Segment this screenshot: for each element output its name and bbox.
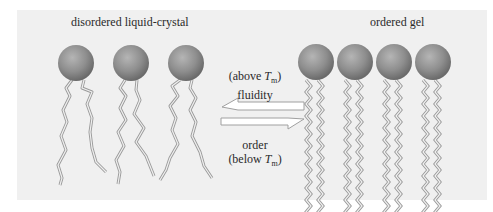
lipid-head [58,45,94,81]
lipid-ordered-2 [337,44,373,212]
fluidity-label: fluidity [200,88,310,102]
above-tm-condition: (above Tm) [200,69,310,88]
lipid-disordered-2 [113,45,154,184]
lipid-head [168,45,204,81]
order-label: order [200,138,310,152]
cooling-transition-label: order (below Tm) [200,138,310,171]
disordered-liquid-crystal-label: disordered liquid-crystal [71,15,189,30]
arrow-right-icon [221,118,304,129]
lipid-head [113,45,149,81]
disordered-lipids [58,45,212,185]
equilibrium-arrows [221,98,304,129]
lipid-head [337,44,373,80]
ordered-gel-label: ordered gel [370,15,424,30]
lipid-ordered-4 [415,44,451,212]
lipid-ordered-3 [376,44,412,212]
below-tm-condition: (below Tm) [200,152,310,171]
lipid-disordered-1 [58,45,106,185]
ordered-lipids [298,44,451,212]
lipid-phase-diagram [0,0,493,212]
lipid-head [415,44,451,80]
lipid-head [376,44,412,80]
heating-transition-label: (above Tm) fluidity [200,69,310,102]
